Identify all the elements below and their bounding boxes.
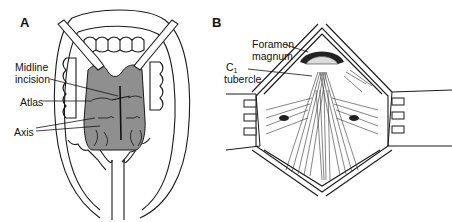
label-atlas: Atlas bbox=[20, 96, 43, 108]
panel-b-posterior-exposure: B Foramen magnum C1 tubercle bbox=[226, 0, 452, 222]
label-midline-incision-line1: Midline bbox=[15, 61, 48, 73]
posterior-exposure-illustration bbox=[226, 0, 452, 222]
panel-letter-b: B bbox=[212, 15, 221, 30]
left-retractor bbox=[226, 94, 260, 150]
transoral-illustration bbox=[0, 0, 226, 222]
label-foramen-magnum-line1: Foramen bbox=[252, 38, 294, 50]
anatomical-figure: A Midline incision Atlas Axis bbox=[0, 0, 452, 222]
label-foramen-magnum-line2: magnum bbox=[252, 50, 293, 62]
right-retractor bbox=[388, 90, 452, 146]
label-midline-incision-line2: incision bbox=[15, 73, 50, 85]
label-axis: Axis bbox=[14, 126, 34, 138]
label-c1-tubercle-line2: tubercle bbox=[224, 73, 261, 85]
posterior-pharyngeal-wall bbox=[84, 65, 145, 150]
panel-a-transoral-view: A Midline incision Atlas Axis bbox=[0, 0, 226, 222]
panel-letter-a: A bbox=[20, 15, 29, 30]
